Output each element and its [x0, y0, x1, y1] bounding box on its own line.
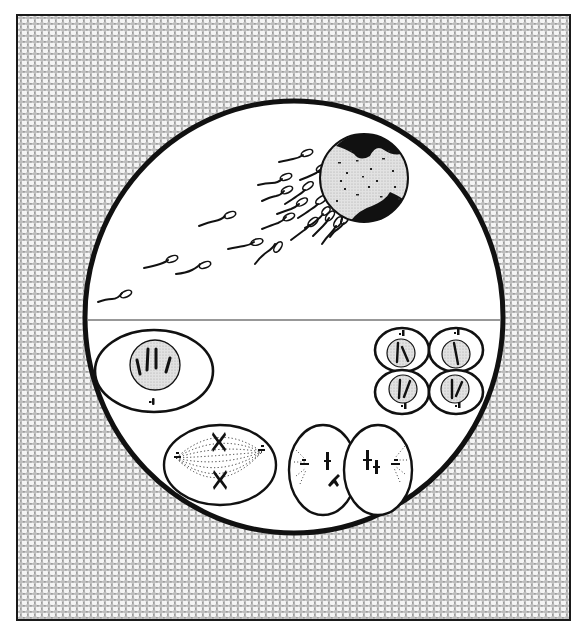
daughter-cell [375, 370, 429, 414]
interphase-cell [95, 330, 213, 412]
figure-canvas [0, 0, 586, 639]
daughter-cell [429, 370, 483, 414]
daughter-cell [429, 328, 483, 372]
daughter-cell [375, 328, 429, 372]
figure [0, 0, 586, 639]
metaphase-cell [164, 425, 276, 505]
